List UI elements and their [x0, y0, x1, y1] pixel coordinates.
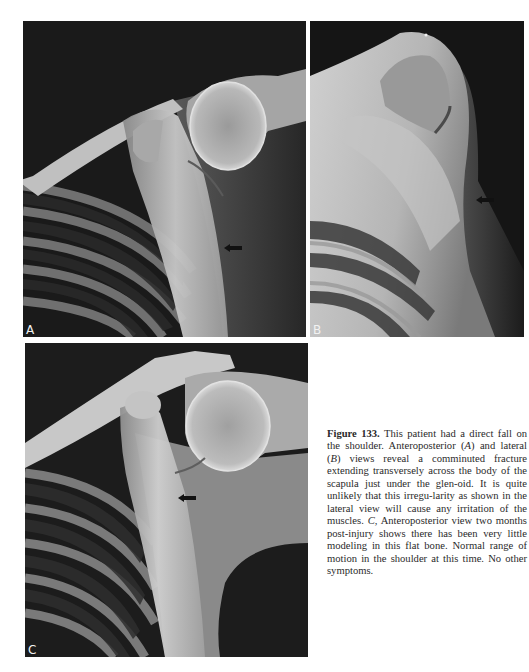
figure-label: Figure 133.	[327, 428, 380, 439]
figure-caption: Figure 133. This patient had a direct fa…	[327, 428, 527, 577]
panel-label-a: A	[26, 324, 34, 336]
left-arrow-icon	[476, 196, 494, 204]
xray-image-a	[23, 21, 306, 337]
xray-image-c	[25, 343, 308, 657]
xray-panel-b: B	[310, 21, 524, 337]
xray-panel-a: A	[23, 21, 306, 337]
panel-label-b: B	[313, 324, 321, 336]
xray-image-b	[310, 21, 524, 337]
fracture-arrow-c	[178, 494, 196, 502]
left-arrow-icon	[224, 244, 242, 252]
panel-label-c: C	[28, 644, 36, 656]
left-arrow-icon	[178, 494, 196, 502]
xray-panel-c: C	[25, 343, 308, 657]
caption-ref-c: C	[368, 515, 375, 526]
fracture-arrow-a	[224, 244, 242, 252]
fracture-arrow-b	[476, 196, 494, 204]
